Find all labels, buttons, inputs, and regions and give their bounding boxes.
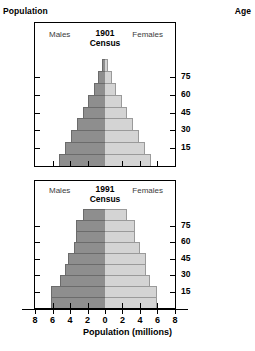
x-minor-tick <box>88 161 89 166</box>
age-axis-caption: Age <box>235 6 251 16</box>
x-axis-extension-left <box>22 309 35 310</box>
pyramid-row <box>35 297 175 308</box>
x-minor-tick <box>140 303 141 308</box>
age-tick <box>170 226 175 227</box>
plot-area-1991: Males Females 1991 Census <box>35 181 175 308</box>
age-tick-label: 15 <box>181 286 190 296</box>
age-tick-label: 30 <box>181 124 190 134</box>
age-tick-label: 60 <box>181 89 190 99</box>
pyramid-row <box>35 231 175 242</box>
pyramid-row <box>35 71 175 83</box>
female-bar <box>105 118 133 130</box>
pyramid-row <box>35 130 175 142</box>
age-tick <box>35 95 40 96</box>
age-tick <box>170 259 175 260</box>
x-axis-tick <box>88 310 89 314</box>
x-axis-tick-label: 0 <box>102 315 107 325</box>
male-bar <box>88 95 105 107</box>
pyramid-row <box>35 118 175 130</box>
male-bar <box>98 71 105 83</box>
age-tick <box>170 242 175 243</box>
chart-title-1991: 1991 Census <box>35 184 175 204</box>
chart-year-1991: 1991 <box>35 184 175 194</box>
pyramid-bars-1901 <box>35 59 175 166</box>
age-tick <box>35 242 40 243</box>
x-minor-tick <box>88 303 89 308</box>
age-tick-label: 45 <box>181 253 190 263</box>
female-bar <box>105 95 122 107</box>
x-minor-tick <box>53 303 54 308</box>
x-axis-tick <box>157 310 158 314</box>
x-axis-tick-label: 4 <box>68 315 73 325</box>
pyramid-row <box>35 220 175 231</box>
female-bar <box>105 142 145 154</box>
age-tick <box>170 148 175 149</box>
x-minor-tick <box>157 161 158 166</box>
age-tick-label: 75 <box>181 220 190 230</box>
female-bar <box>105 231 135 242</box>
chart-census-1901: Census <box>35 38 175 48</box>
chart-census-1991: Census <box>35 194 175 204</box>
pyramid-row <box>35 154 175 166</box>
chart-title-1901: 1901 Census <box>35 28 175 48</box>
x-axis-tick-label: 8 <box>172 315 177 325</box>
age-tick <box>170 95 175 96</box>
male-bar <box>60 275 105 286</box>
population-axis-caption: Population <box>3 6 48 16</box>
age-tick <box>35 226 40 227</box>
pyramid-row <box>35 95 175 107</box>
age-tick <box>35 275 40 276</box>
female-bar <box>105 253 146 264</box>
pyramid-row <box>35 83 175 95</box>
x-minor-tick <box>70 303 71 308</box>
age-tick <box>170 275 175 276</box>
female-bar <box>105 220 135 231</box>
x-axis-tick <box>35 310 36 314</box>
x-minor-tick <box>157 303 158 308</box>
age-tick-label: 75 <box>181 71 190 81</box>
age-tick <box>170 113 175 114</box>
female-bar <box>105 242 140 253</box>
x-axis-tick-label: 4 <box>137 315 142 325</box>
male-bar <box>77 118 105 130</box>
female-bar <box>105 107 127 119</box>
pyramid-row <box>35 275 175 286</box>
age-tick-label: 60 <box>181 236 190 246</box>
male-bar <box>83 209 105 220</box>
female-bar <box>105 275 150 286</box>
age-tick <box>170 130 175 131</box>
male-bar <box>76 231 105 242</box>
male-bar <box>94 83 105 95</box>
age-tick <box>170 292 175 293</box>
male-bar <box>65 264 105 275</box>
age-tick <box>35 130 40 131</box>
male-bar <box>51 297 105 308</box>
age-tick <box>35 77 40 78</box>
male-bar <box>83 107 105 119</box>
pyramid-row <box>35 142 175 154</box>
female-bar <box>105 59 108 71</box>
age-tick <box>35 113 40 114</box>
pyramid-row <box>35 107 175 119</box>
x-axis-tick-label: 2 <box>85 315 90 325</box>
female-bar <box>105 264 146 275</box>
x-minor-tick <box>53 161 54 166</box>
female-bar <box>105 130 139 142</box>
x-axis-tick <box>53 310 54 314</box>
female-bar <box>105 71 112 83</box>
x-minor-tick <box>122 161 123 166</box>
male-bar <box>65 142 105 154</box>
x-axis-tick <box>175 310 176 314</box>
plot-area-1901: Males Females 1901 Census <box>35 23 175 166</box>
male-bar <box>68 253 105 264</box>
pyramid-row <box>35 286 175 297</box>
pyramid-row <box>35 59 175 71</box>
age-tick <box>35 292 40 293</box>
age-tick <box>170 77 175 78</box>
female-bar <box>105 297 157 308</box>
x-axis-tick <box>140 310 141 314</box>
age-tick-label: 15 <box>181 142 190 152</box>
age-tick <box>35 259 40 260</box>
age-tick-label: 45 <box>181 107 190 117</box>
x-axis-tick-label: 8 <box>33 315 38 325</box>
